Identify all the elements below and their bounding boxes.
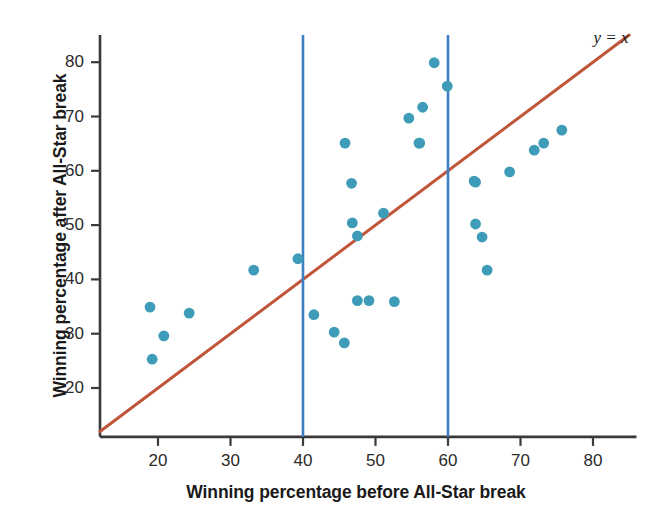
- data-point: [145, 302, 156, 313]
- identity-reference-line: [100, 35, 629, 431]
- data-point: [184, 308, 195, 319]
- data-point: [308, 309, 319, 320]
- data-point: [529, 145, 540, 156]
- identity-line-annotation: y = x: [594, 28, 629, 48]
- data-point: [417, 102, 428, 113]
- y-axis-tick-label: 20: [44, 378, 84, 398]
- x-axis-tick-label: 50: [356, 451, 396, 471]
- x-axis-tick-label: 60: [428, 451, 468, 471]
- y-axis-tick-label: 60: [44, 161, 84, 181]
- data-point: [470, 219, 481, 230]
- data-point: [470, 177, 481, 188]
- x-axis-tick-label: 30: [211, 451, 251, 471]
- data-point: [429, 57, 440, 68]
- data-point: [477, 232, 488, 243]
- x-axis-tick-label: 80: [573, 451, 613, 471]
- x-axis-tick-label: 70: [501, 451, 541, 471]
- y-axis-tick-label: 80: [44, 52, 84, 72]
- data-point: [504, 166, 515, 177]
- data-point: [347, 218, 358, 229]
- y-axis-tick-label: 70: [44, 107, 84, 127]
- data-point: [346, 178, 357, 189]
- y-axis-tick-label: 50: [44, 215, 84, 235]
- data-point: [364, 295, 375, 306]
- plot-canvas: [0, 0, 664, 531]
- data-point: [442, 81, 453, 92]
- data-point: [147, 354, 158, 365]
- data-point: [329, 327, 340, 338]
- data-point: [403, 113, 414, 124]
- data-point: [538, 138, 549, 149]
- data-point: [414, 138, 425, 149]
- data-point: [556, 125, 567, 136]
- x-axis-tick-label: 40: [283, 451, 323, 471]
- data-point: [293, 253, 304, 264]
- data-point: [352, 295, 363, 306]
- data-point: [158, 330, 169, 341]
- data-point: [482, 265, 493, 276]
- data-point: [248, 265, 259, 276]
- data-point: [389, 296, 400, 307]
- y-axis-tick-label: 40: [44, 269, 84, 289]
- scatter-plot-figure: Winning percentage after All-Star break …: [0, 0, 664, 531]
- y-axis-tick-label: 30: [44, 324, 84, 344]
- data-point: [378, 208, 389, 219]
- data-point: [339, 338, 350, 349]
- data-point: [352, 231, 363, 242]
- data-point: [340, 138, 351, 149]
- x-axis-tick-label: 20: [138, 451, 178, 471]
